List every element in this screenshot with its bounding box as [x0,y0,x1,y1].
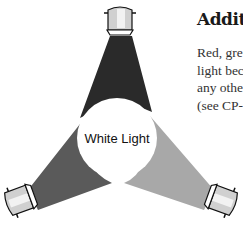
additive-light-diagram: White Light [0,0,243,235]
body-line: light bec [197,62,243,80]
body-line: (see CP-3 [197,97,243,115]
body-paragraph: Red, gre light bec any othe (see CP-3 [197,44,243,114]
body-line: Red, gre [197,44,243,62]
top-lamp-icon [104,7,136,35]
section-title: Addit [197,9,243,29]
white-light-label: White Light [84,131,149,146]
body-line: any othe [197,79,243,97]
